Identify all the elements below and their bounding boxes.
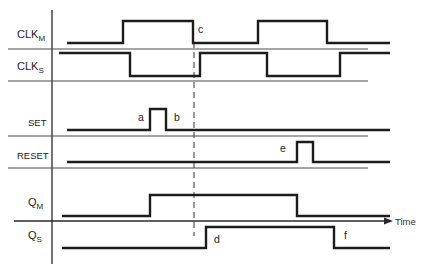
event-label-a: a: [138, 111, 144, 123]
event-label-c: c: [198, 23, 203, 35]
label-q-s: QS: [28, 229, 42, 244]
event-label-b: b: [174, 111, 180, 123]
event-label-e: e: [280, 142, 286, 154]
waveform-set: [67, 109, 390, 130]
timing-diagram: Time CLKM CLKS SET RESET QM QS a b c d e…: [0, 0, 426, 274]
waveform-reset: [67, 142, 390, 162]
waveform-q-s: [62, 227, 390, 248]
waveform-q-m: [62, 195, 390, 216]
label-clk-m: CLKM: [17, 28, 45, 43]
time-arrow-icon: [384, 218, 393, 225]
label-set: SET: [28, 117, 47, 128]
label-q-m: QM: [28, 196, 44, 211]
label-reset: RESET: [17, 150, 49, 161]
waveform-clk-s: [59, 53, 390, 76]
label-clk-s: CLKS: [17, 60, 44, 75]
waveforms: [59, 21, 390, 248]
event-label-f: f: [344, 229, 347, 241]
waveform-clk-m: [67, 21, 390, 43]
event-label-d: d: [214, 233, 220, 245]
time-axis-label: Time: [395, 216, 416, 227]
